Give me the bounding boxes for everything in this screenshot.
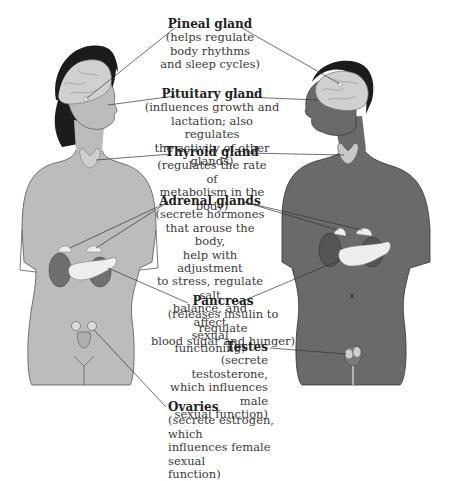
label-title: Adrenal glands <box>155 195 265 208</box>
male-figure <box>282 61 430 385</box>
label-title: Ovaries <box>168 401 308 414</box>
label-title: Testes <box>148 341 268 354</box>
label-description: (helps regulate body rhythms and sleep c… <box>160 31 260 71</box>
label-title: Thyroid gland <box>150 146 274 159</box>
label-ovaries: Ovaries (secrete estrogen, which influen… <box>168 401 308 481</box>
label-title: Pancreas <box>148 295 298 308</box>
label-title: Pituitary gland <box>142 88 282 101</box>
label-description: (secrete estrogen, which influences fema… <box>168 414 308 481</box>
label-pineal-gland: Pineal gland (helps regulate body rhythm… <box>160 18 260 72</box>
label-title: Pineal gland <box>160 18 260 31</box>
